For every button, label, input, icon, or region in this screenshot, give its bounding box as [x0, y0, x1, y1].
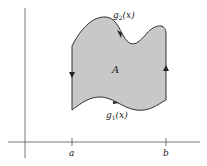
region-diagram: A g2(x) g1(x) a b — [0, 0, 207, 166]
lower-curve-label: g1(x) — [106, 110, 128, 121]
region-label: A — [111, 64, 119, 75]
tick-label-a: a — [69, 148, 74, 158]
upper-curve-label: g2(x) — [113, 10, 135, 21]
tick-label-b: b — [163, 148, 169, 158]
